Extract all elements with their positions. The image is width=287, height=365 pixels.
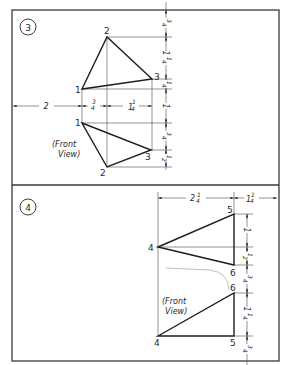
point-label-4: 4 <box>154 338 160 348</box>
technical-drawing: 3 2 3 1 1 3 2 (Front View) 2 3 4 1 <box>0 0 287 365</box>
point-label-5: 5 <box>227 205 233 215</box>
point-label-2: 2 <box>104 26 110 36</box>
problem-4-panel: 4 5 4 6 6 4 5 (Front View) 2 1 4 1 1 <box>20 191 277 365</box>
dimension-3-4: 3 4 <box>161 18 173 28</box>
point-label-1: 1 <box>75 85 81 95</box>
svg-text:1: 1 <box>161 103 170 108</box>
svg-text:1: 1 <box>242 227 251 232</box>
dimension-3-4: 3 4 <box>161 131 173 141</box>
svg-text:1: 1 <box>242 306 251 311</box>
point-label-2: 2 <box>100 168 106 178</box>
dimension-2-1-4: 2 <box>190 194 195 203</box>
point-label-6: 6 <box>230 268 236 278</box>
dimension-3-4: 4 <box>91 104 95 111</box>
svg-text:4: 4 <box>161 136 168 140</box>
dimension-2-1-4: 4 <box>196 197 200 204</box>
point-label-3: 3 <box>145 152 151 162</box>
dimension-1-1-4: 1 <box>132 98 136 105</box>
dimension-1: 1 <box>161 103 170 109</box>
point-label-1: 1 <box>75 118 81 128</box>
problem-number: 4 <box>25 203 31 213</box>
dimension-1-2: 1 2 <box>242 252 254 260</box>
point-label-3: 3 <box>154 72 160 82</box>
dimension-1-1-4: 1 1 4 <box>242 306 254 321</box>
dimension-3-4: 3 4 <box>242 274 254 284</box>
svg-text:4: 4 <box>242 349 249 353</box>
svg-text:1: 1 <box>161 50 170 55</box>
svg-text:2: 2 <box>161 158 168 162</box>
top-view-triangle <box>82 37 152 89</box>
front-view-triangle <box>82 123 151 167</box>
dimension-1-2: 1 2 <box>161 154 173 162</box>
problem-number: 3 <box>25 23 31 33</box>
front-view-label: (Front <box>52 140 77 149</box>
svg-text:4: 4 <box>161 60 168 64</box>
point-label-5: 5 <box>230 338 236 348</box>
dimension-1-4: 1 4 <box>161 80 173 88</box>
svg-text:4: 4 <box>161 23 168 27</box>
dimension-1-1-4: 4 <box>250 197 254 204</box>
dimension-1-1-4: 4 <box>131 105 135 112</box>
dimension-3-4: 3 4 <box>242 344 254 354</box>
dimension-1-1-4: 1 1 4 <box>161 50 173 65</box>
projection-curve <box>166 268 229 290</box>
svg-text:2: 2 <box>242 256 249 260</box>
front-view-label: View) <box>165 307 187 316</box>
point-label-4: 4 <box>148 243 154 253</box>
problem-3-panel: 3 2 3 1 1 3 2 (Front View) 2 3 4 1 <box>13 2 173 178</box>
dimension-1: 1 <box>242 227 251 233</box>
top-view-triangle <box>158 214 234 265</box>
dimension-2: 2 <box>43 102 48 111</box>
svg-text:4: 4 <box>242 316 249 320</box>
svg-text:4: 4 <box>161 84 168 88</box>
point-label-6: 6 <box>230 283 236 293</box>
front-view-label: (Front <box>162 297 187 306</box>
svg-text:4: 4 <box>242 279 249 283</box>
front-view-label: View) <box>58 150 80 159</box>
